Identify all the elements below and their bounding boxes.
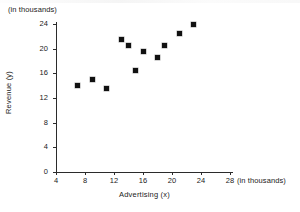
data-point	[191, 22, 196, 27]
data-point	[133, 68, 138, 73]
x-tick-mark	[143, 172, 144, 175]
data-point	[119, 37, 124, 42]
data-point	[75, 83, 80, 88]
y-tick-mark	[53, 147, 56, 148]
data-point	[155, 55, 160, 60]
x-tick-mark	[85, 172, 86, 175]
plot-area: (in thousands) 04812162024 481216202428 …	[0, 0, 300, 212]
x-tick-label: 8	[74, 176, 96, 185]
y-tick-label: 16	[26, 69, 48, 77]
x-tick-mark	[201, 172, 202, 175]
x-axis-unit-note: (in thousands)	[237, 176, 286, 185]
x-tick-mark	[230, 172, 231, 175]
y-tick-label: 8	[26, 119, 48, 127]
x-tick-label: 12	[103, 176, 125, 185]
y-axis-unit-note: (in thousands)	[8, 5, 57, 14]
x-tick-mark	[114, 172, 115, 175]
data-point	[126, 43, 131, 48]
data-point	[104, 86, 109, 91]
data-point	[90, 77, 95, 82]
data-point	[162, 43, 167, 48]
y-tick-mark	[53, 73, 56, 74]
y-axis-title: Revenue (y)	[4, 63, 13, 123]
y-tick-mark	[53, 49, 56, 50]
x-tick-label: 16	[132, 176, 154, 185]
y-tick-label: 12	[26, 94, 48, 102]
x-axis-line	[56, 172, 233, 173]
data-point	[177, 31, 182, 36]
data-point	[141, 49, 146, 54]
y-axis-line	[56, 22, 57, 173]
y-tick-label: 24	[26, 20, 48, 28]
scatter-plot-figure: (in thousands) 04812162024 481216202428 …	[0, 0, 300, 212]
x-tick-label: 20	[161, 176, 183, 185]
y-tick-label: 4	[26, 143, 48, 151]
x-tick-mark	[172, 172, 173, 175]
y-tick-mark	[53, 98, 56, 99]
y-tick-mark	[53, 24, 56, 25]
x-tick-label: 4	[45, 176, 67, 185]
x-axis-title: Advertising (x)	[56, 190, 233, 199]
y-tick-label: 20	[26, 45, 48, 53]
y-tick-mark	[53, 123, 56, 124]
y-tick-label: 0	[26, 168, 48, 176]
x-tick-mark	[56, 172, 57, 175]
x-tick-label: 24	[190, 176, 212, 185]
